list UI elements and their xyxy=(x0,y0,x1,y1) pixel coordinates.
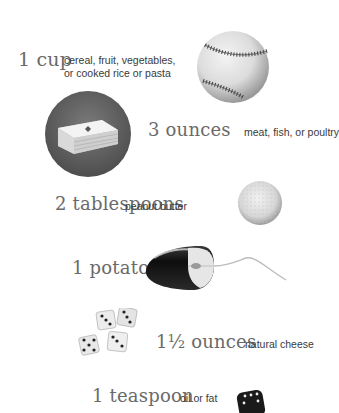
amount-label: 3 ounces xyxy=(148,121,231,139)
description-label: natural cheese xyxy=(245,338,314,351)
description-label: cereal, fruit, vegetables, or cooked ric… xyxy=(64,54,175,80)
amount-label: 1 potato xyxy=(72,259,149,277)
amount-label: 1 teaspoon xyxy=(92,387,194,405)
four-dice-icon xyxy=(78,308,148,366)
amount-label: 1½ ounces xyxy=(156,333,256,351)
deck-of-cards-icon xyxy=(44,90,132,178)
golf-ball-icon xyxy=(237,180,283,226)
description-label: oil or fat xyxy=(180,392,217,405)
description-label: meat, fish, or poultry xyxy=(244,126,339,139)
single-die-icon xyxy=(236,389,266,413)
description-line-2: or cooked rice or pasta xyxy=(64,67,175,80)
description-line-1: cereal, fruit, vegetables, xyxy=(64,54,175,67)
computer-mouse-icon xyxy=(142,244,290,294)
description-label: peanut butter xyxy=(125,200,187,213)
baseball-icon xyxy=(195,29,271,105)
